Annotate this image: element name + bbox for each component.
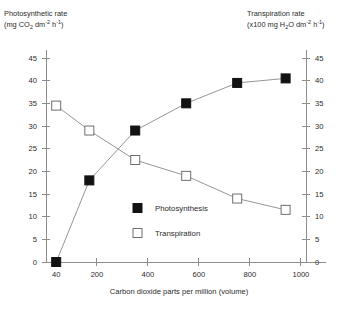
- data-point-photosynthesis-1: [85, 176, 94, 185]
- left-tick-label: 40: [29, 76, 37, 85]
- x-tick-label: 1000: [292, 270, 309, 279]
- right-tick-label: 0: [315, 258, 319, 267]
- x-tick-label: 400: [142, 270, 155, 279]
- data-point-photosynthesis-4: [233, 78, 242, 87]
- left-tick-label: 10: [29, 212, 37, 221]
- left-tick-label: 5: [33, 235, 37, 244]
- chart-plot-area: 051015202530354045 051015202530354045 40…: [0, 0, 358, 310]
- x-tick-label: 800: [244, 270, 257, 279]
- left-tick-label: 0: [33, 258, 37, 267]
- right-tick-label: 20: [315, 167, 323, 176]
- series-line-transpiration: [56, 106, 285, 210]
- data-point-transpiration-3: [182, 171, 191, 180]
- left-tick-label: 35: [29, 99, 37, 108]
- data-point-photosynthesis-3: [182, 99, 191, 108]
- chart-legend: PhotosynthesisTranspiration: [133, 204, 208, 239]
- right-axis-ticks: 051015202530354045: [302, 54, 323, 267]
- data-point-transpiration-0: [52, 101, 61, 110]
- x-tick-label: 40: [52, 270, 60, 279]
- right-tick-label: 40: [315, 76, 323, 85]
- data-point-photosynthesis-0: [52, 258, 61, 267]
- right-tick-label: 15: [315, 190, 323, 199]
- x-tick-label: 200: [91, 270, 104, 279]
- left-tick-label: 30: [29, 122, 37, 131]
- x-axis-ticks: 402004006008001000: [52, 258, 309, 279]
- chart-svg: 051015202530354045 051015202530354045 40…: [0, 0, 358, 310]
- data-point-transpiration-1: [85, 126, 94, 135]
- data-point-transpiration-2: [131, 156, 140, 165]
- right-tick-label: 10: [315, 212, 323, 221]
- left-axis-ticks: 051015202530354045: [29, 54, 50, 267]
- legend-label-transpiration: Transpiration: [155, 229, 200, 238]
- left-tick-label: 25: [29, 144, 37, 153]
- right-tick-label: 35: [315, 99, 323, 108]
- legend-label-photosynthesis: Photosynthesis: [155, 204, 208, 213]
- data-point-transpiration-4: [233, 194, 242, 203]
- right-tick-label: 25: [315, 144, 323, 153]
- right-tick-label: 30: [315, 122, 323, 131]
- left-tick-label: 15: [29, 190, 37, 199]
- left-tick-label: 45: [29, 54, 37, 63]
- right-tick-label: 45: [315, 54, 323, 63]
- data-point-photosynthesis-5: [281, 74, 290, 83]
- data-point-photosynthesis-2: [131, 126, 140, 135]
- x-tick-label: 600: [193, 270, 206, 279]
- x-axis-title: Carbon dioxide parts per million (volume…: [0, 287, 358, 296]
- right-tick-label: 5: [315, 235, 319, 244]
- legend-marker-photosynthesis: [133, 204, 142, 213]
- legend-marker-transpiration: [133, 229, 142, 238]
- data-point-transpiration-5: [281, 205, 290, 214]
- left-tick-label: 20: [29, 167, 37, 176]
